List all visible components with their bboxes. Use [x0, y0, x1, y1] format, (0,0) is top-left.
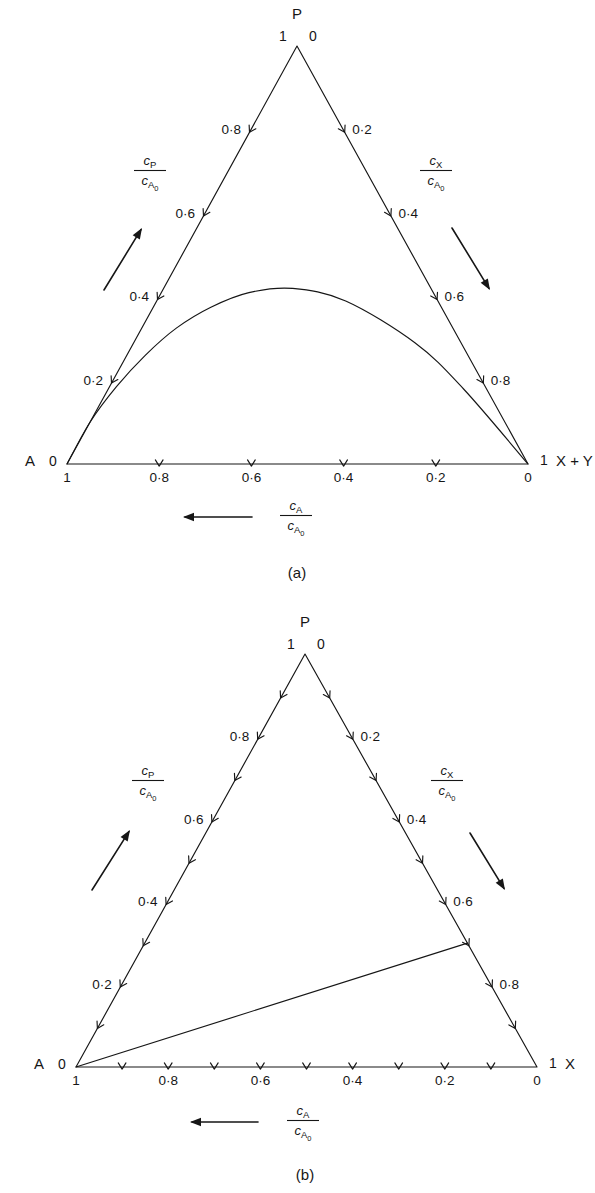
bottom-tick-label-3: 0·4	[343, 1073, 363, 1088]
triangle-outline	[67, 46, 528, 464]
right-tick-label-3: 0·8	[500, 977, 520, 992]
bottom-tick-label-0: 1	[63, 470, 71, 485]
tick-bottom-7	[395, 1063, 403, 1069]
tick-bottom-1	[155, 460, 163, 466]
axis-label-c-a-over-c-a0-a: cAcA0	[280, 498, 312, 538]
axis-label-numerator: cP	[144, 153, 157, 170]
axis-label-c-x-over-c-a0-b: cXcA0	[431, 763, 463, 803]
right-vertex-label: X	[565, 1055, 575, 1072]
right-tick-label-1: 0·4	[407, 812, 427, 827]
axis-label-denominator: cA0	[294, 1123, 311, 1143]
left-axis-direction-arrow	[92, 830, 130, 890]
tick-bottom-4	[257, 1063, 265, 1069]
arrow-shaft	[104, 230, 141, 290]
tick-bottom-3	[210, 1063, 218, 1069]
left-tick-label-0: 0·2	[92, 977, 112, 992]
ternary-chart-a: 10·80·60·40·200·20·40·60·80·20·40·60·8P1…	[0, 0, 595, 600]
triangle-edges	[67, 46, 528, 464]
axis-label-numerator: cA	[297, 1103, 311, 1120]
tick-bottom-1	[118, 1063, 126, 1069]
ternary-diagram-panel-a: 10·80·60·40·200·20·40·60·80·20·40·60·8P1…	[0, 0, 595, 600]
panel-caption: (a)	[288, 564, 306, 581]
arrow-head	[121, 830, 130, 842]
axis-label-denominator: cA0	[438, 783, 455, 803]
arrow-shaft	[452, 228, 489, 288]
apex-value-right: 0	[317, 636, 325, 652]
apex-value-right: 0	[309, 28, 317, 44]
left-vertex-value: 0	[58, 1056, 66, 1072]
arrow-shaft	[92, 832, 129, 890]
axis-label-denominator: cA0	[427, 173, 444, 193]
tick-bottom-9	[487, 1063, 495, 1069]
ternary-diagram-panel-b: 10·80·60·40·200·20·40·60·80·20·40·60·8P1…	[0, 590, 595, 1193]
left-tick-label-3: 0·8	[221, 122, 241, 137]
apex-value-left: 1	[287, 636, 295, 652]
axis-label-c-x-over-c-a0-a: cXcA0	[420, 153, 452, 193]
bottom-tick-label-2: 0·6	[242, 470, 262, 485]
right-axis-direction-arrow	[470, 833, 505, 890]
right-tick-label-2: 0·6	[453, 894, 473, 909]
left-axis-ticks: 0·20·40·60·8	[92, 691, 287, 1029]
left-tick-label-2: 0·6	[175, 206, 195, 221]
tick-bottom-5	[303, 1063, 311, 1069]
bottom-tick-label-5: 0	[524, 470, 532, 485]
reaction-path-curve	[67, 288, 528, 464]
left-tick-label-3: 0·8	[230, 729, 250, 744]
left-axis-ticks: 0·20·40·60·8	[83, 122, 255, 388]
bottom-axis-direction-arrow	[190, 1118, 258, 1126]
tick-bottom-2	[248, 460, 256, 466]
panel-caption: (b)	[296, 1166, 314, 1183]
right-tick-label-1: 0·4	[398, 206, 418, 221]
left-vertex-label-A: A	[34, 1055, 44, 1072]
left-vertex-label-A: A	[25, 452, 35, 469]
tick-bottom-4	[432, 460, 440, 466]
arrow-shaft	[470, 833, 504, 888]
right-tick-label-2: 0·6	[445, 289, 465, 304]
axis-label-numerator: cX	[441, 763, 455, 780]
right-axis-direction-arrow	[452, 228, 490, 290]
left-tick-label-0: 0·2	[83, 373, 103, 388]
right-vertex-value: 1	[540, 452, 548, 468]
bottom-tick-label-5: 0	[533, 1073, 541, 1088]
right-axis-ticks: 0·20·40·60·8	[338, 122, 510, 388]
axis-label-c-p-over-c-a0-b: cPcA0	[132, 763, 164, 803]
arrow-head	[133, 228, 142, 240]
axis-label-numerator: cA	[290, 498, 304, 515]
triangle-edges	[76, 654, 537, 1067]
left-vertex-value: 0	[49, 453, 57, 469]
tick-bottom-8	[441, 1063, 449, 1069]
right-tick-label-0: 0·2	[352, 122, 372, 137]
bottom-tick-label-3: 0·4	[334, 470, 354, 485]
axis-label-numerator: cP	[142, 763, 155, 780]
arrow-head	[183, 513, 194, 521]
bottom-tick-label-4: 0·2	[435, 1073, 455, 1088]
left-axis-direction-arrow	[104, 228, 142, 290]
apex-value-left: 1	[279, 28, 287, 44]
bottom-tick-label-2: 0·6	[251, 1073, 271, 1088]
right-tick-label-3: 0·8	[491, 373, 511, 388]
vertex-labels: P10A01X + Y	[25, 5, 593, 469]
left-tick-label-1: 0·4	[138, 894, 158, 909]
arrow-head	[481, 278, 490, 290]
apex-label-P: P	[300, 613, 310, 630]
vertex-labels: P10A01X	[34, 613, 575, 1072]
ternary-chart-b: 10·80·60·40·200·20·40·60·80·20·40·60·8P1…	[0, 590, 595, 1193]
apex-label-P: P	[292, 5, 302, 22]
bottom-tick-label-0: 1	[72, 1073, 80, 1088]
bottom-axis-direction-arrow	[183, 513, 252, 521]
tick-bottom-2	[164, 1063, 172, 1069]
axis-label-c-p-over-c-a0-a: cPcA0	[134, 153, 166, 193]
axis-label-denominator: cA0	[287, 518, 304, 538]
right-tick-label-0: 0·2	[360, 729, 380, 744]
left-tick-label-1: 0·4	[129, 289, 149, 304]
bottom-tick-label-1: 0·8	[149, 470, 169, 485]
figure-page: 10·80·60·40·200·20·40·60·80·20·40·60·8P1…	[0, 0, 595, 1193]
triangle-outline	[76, 654, 537, 1067]
tick-bottom-6	[349, 1063, 357, 1069]
right-vertex-label: X + Y	[556, 452, 593, 469]
axis-label-denominator: cA0	[141, 173, 158, 193]
axis-label-denominator: cA0	[139, 783, 156, 803]
axis-label-c-a-over-c-a0-b: cAcA0	[287, 1103, 319, 1143]
axis-label-numerator: cX	[430, 153, 444, 170]
right-vertex-value: 1	[549, 1055, 557, 1071]
